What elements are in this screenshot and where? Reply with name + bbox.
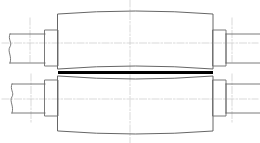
upper-half-view-crowned-roller-body [58,11,213,69]
lower-half-view-right-collar [213,80,226,116]
lower-half-view-left-collar [45,80,58,116]
upper-half-view-right-collar [213,30,226,66]
upper-half-view-left-shaft-break-line [9,34,11,63]
technical-drawing-canvas [0,0,260,143]
lower-half-view-crowned-roller-body [58,76,213,134]
upper-half-view-left-collar [45,30,58,66]
lower-half-view-left-shaft-break-line [11,84,13,113]
technical-drawing-svg [0,0,260,143]
